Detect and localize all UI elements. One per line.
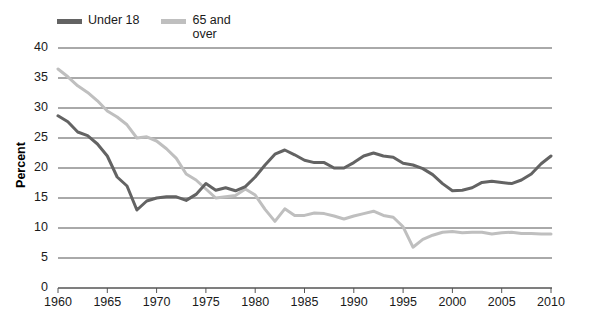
x-tick-label: 1980	[235, 296, 275, 309]
x-tick-label: 1985	[285, 296, 325, 309]
x-tick-label: 1995	[383, 296, 423, 309]
y-tick-label: 5	[22, 251, 48, 263]
y-tick-label: 0	[22, 281, 48, 293]
y-tick-label: 35	[22, 71, 48, 83]
x-tick-label: 2005	[482, 296, 522, 309]
x-tick-label: 1965	[87, 296, 127, 309]
chart-canvas	[0, 0, 594, 324]
x-tick-label: 2000	[432, 296, 472, 309]
data-series-group	[58, 69, 551, 247]
x-tick-label: 1975	[186, 296, 226, 309]
data-line-65-and-over	[58, 69, 551, 247]
plot-area	[0, 0, 594, 324]
x-tick-label: 2010	[531, 296, 571, 309]
x-tick-label: 1990	[334, 296, 374, 309]
gridlines	[58, 48, 552, 288]
y-tick-label: 40	[22, 41, 48, 53]
y-tick-label: 30	[22, 101, 48, 113]
y-axis-title: Percent	[14, 130, 28, 200]
x-tick-label: 1960	[38, 296, 78, 309]
x-axis	[58, 288, 552, 293]
y-tick-label: 10	[22, 221, 48, 233]
chart-figure: Under 18 65 and over 0510152025303540 19…	[0, 0, 594, 324]
x-tick-label: 1970	[137, 296, 177, 309]
